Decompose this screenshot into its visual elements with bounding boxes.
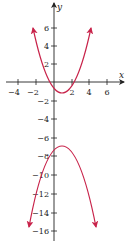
y-tick-label: −2 [37,97,49,106]
y-tick-label: −14 [32,209,49,218]
y-axis-label: y [56,2,63,12]
y-tick-label: −6 [37,134,49,143]
y-tick-label: 6 [44,24,49,33]
x-tick-label: −4 [8,88,20,97]
y-tick-label: 4 [44,42,49,51]
x-tick-label: 6 [104,88,109,97]
upper-parabola [33,28,91,93]
x-tick-label: 2 [69,88,74,97]
y-axis: y 6 4 2 −2 −4 −6 −8 −10 −12 −14 −16 [32,2,63,241]
graph: x −4 −2 2 4 6 y 6 4 2 −2 −4 −6 −8 −10 −1… [0,0,131,248]
x-tick-label: 4 [86,88,91,97]
x-tick-label: −2 [27,88,39,97]
x-axis-label: x [119,70,124,80]
y-tick-label: 2 [44,60,49,69]
y-tick-label: −4 [37,115,49,124]
y-tick-label: −16 [32,227,49,236]
